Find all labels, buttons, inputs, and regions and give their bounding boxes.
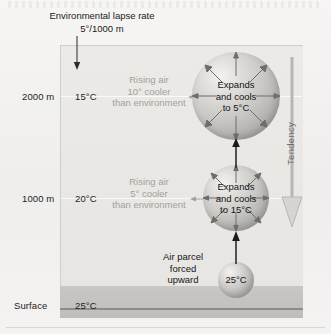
rising-arrow-lower-icon — [231, 231, 241, 264]
air-parcel-lower: 25°C — [218, 262, 254, 298]
air-parcel-middle: Expands and cools to 15°C — [203, 165, 269, 231]
note-middle-rising-air: Rising air 5° cooler than environment — [104, 176, 194, 211]
altitude-label-surface: Surface — [14, 300, 47, 311]
air-parcel-lower-text: 25°C — [218, 274, 254, 286]
environment-temp-surface: 25°C — [75, 300, 97, 311]
bottom-divider — [6, 327, 325, 328]
note-upper-rising-air: Rising air 10° cooler than environment — [104, 74, 194, 109]
note-forced-line3: upward — [152, 274, 214, 286]
note-upper-line1: Rising air — [104, 74, 194, 86]
environment-temp-1000m: 20°C — [75, 193, 97, 204]
note-forced-line1: Air parcel — [152, 251, 214, 263]
altitude-label-1000m: 1000 m — [22, 193, 54, 204]
environment-temp-2000m: 15°C — [75, 91, 97, 102]
parcel-middle-line3: to 15°C — [203, 204, 269, 216]
parcel-middle-line2: and cools — [203, 192, 269, 204]
altitude-label-2000m: 2000 m — [22, 91, 54, 102]
note-middle-line3: than environment — [104, 199, 194, 211]
tendency-label: Tendency — [285, 122, 296, 165]
scan-artifact-top — [8, 1, 323, 8]
lapse-rate-value: 5°/1000 m — [22, 23, 182, 36]
note-middle-arrow-icon — [190, 195, 204, 203]
rising-arrow-upper-icon — [231, 138, 241, 168]
note-upper-line3: than environment — [104, 97, 194, 109]
lapse-rate-arrow-icon — [72, 36, 82, 72]
parcel-upper-line1: Expands — [192, 79, 280, 91]
air-parcel-upper-text: Expands and cools to 5°C — [192, 79, 280, 114]
note-middle-line1: Rising air — [104, 176, 194, 188]
note-middle-line2: 5° cooler — [104, 188, 194, 200]
note-parcel-forced-upward: Air parcel forced upward — [152, 251, 214, 286]
parcel-lower-temp: 25°C — [218, 274, 254, 286]
note-upper-line2: 10° cooler — [104, 86, 194, 98]
parcel-middle-line1: Expands — [203, 181, 269, 193]
parcel-upper-line3: to 5°C — [192, 102, 280, 114]
lapse-rate-title: Environmental lapse rate — [22, 10, 182, 23]
adiabatic-cooling-diagram: Environmental lapse rate 5°/1000 m 2000 … — [0, 0, 331, 334]
note-forced-line2: forced — [152, 263, 214, 275]
air-parcel-upper: Expands and cools to 5°C — [192, 52, 280, 140]
parcel-upper-line2: and cools — [192, 90, 280, 102]
air-parcel-middle-text: Expands and cools to 15°C — [203, 181, 269, 216]
